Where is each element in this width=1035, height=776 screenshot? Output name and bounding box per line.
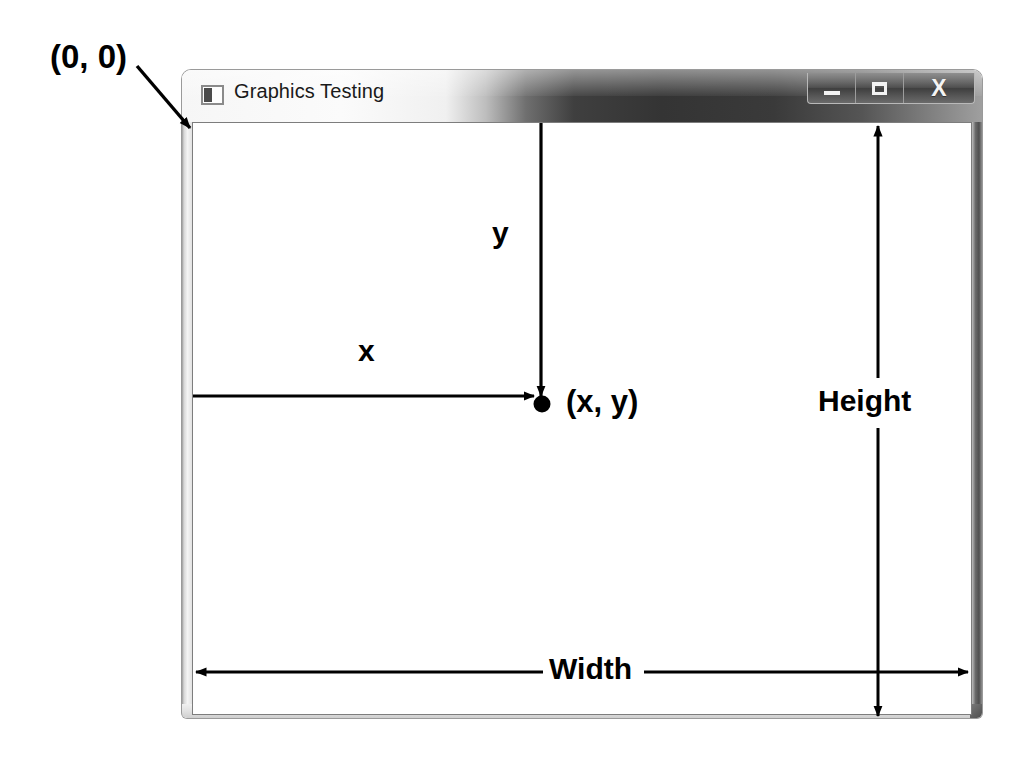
close-button[interactable]: X [904, 73, 974, 103]
window-icon[interactable] [201, 85, 224, 105]
window-border-right [972, 122, 982, 718]
window-border-left [182, 122, 192, 718]
minimize-icon [824, 91, 840, 95]
height-label: Height [818, 386, 911, 416]
window-title: Graphics Testing [234, 80, 384, 103]
width-label: Width [543, 654, 638, 684]
x-label: x [358, 336, 375, 366]
point-coordinate-label: (x, y) [566, 386, 638, 417]
maximize-icon [872, 82, 887, 95]
diagram-canvas: Graphics Testing X [0, 0, 1035, 776]
close-icon: X [931, 77, 946, 100]
window-title-bar[interactable]: Graphics Testing X [182, 70, 982, 122]
window-controls: X [807, 73, 975, 104]
maximize-button[interactable] [856, 73, 904, 103]
minimize-button[interactable] [808, 73, 856, 103]
origin-label: (0, 0) [50, 40, 127, 73]
y-label: y [492, 218, 509, 248]
